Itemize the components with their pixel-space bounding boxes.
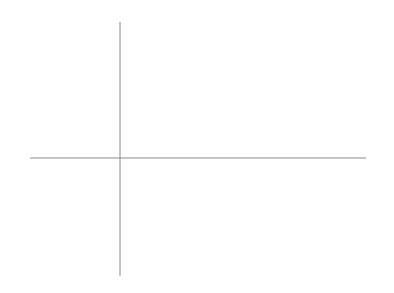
elliptic-curve-plot: [0, 0, 394, 293]
